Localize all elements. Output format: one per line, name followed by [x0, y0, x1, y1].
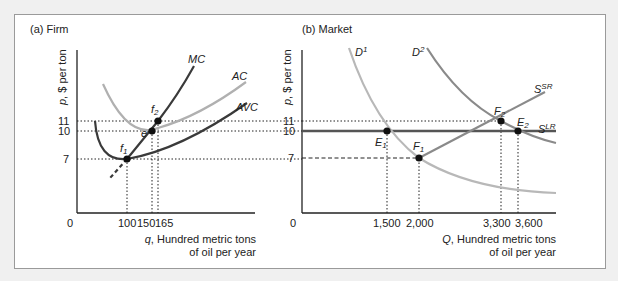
market-y-tick-7: 7	[288, 152, 294, 164]
market-x-tick-3300: 3,300	[483, 217, 511, 229]
label-e: e	[141, 127, 147, 139]
market-x-axis-label-2: of oil per year	[489, 246, 556, 258]
label-f1-market: F1	[413, 140, 424, 154]
firm-y-tick-7: 7	[63, 153, 69, 165]
point-e1	[383, 127, 390, 134]
market-x-tick-2000: 2,000	[406, 217, 434, 229]
d2-label: D2	[412, 45, 425, 58]
avc-label: AVC	[235, 101, 258, 113]
slr-label: SLR	[538, 122, 556, 135]
firm-origin: 0	[67, 217, 73, 229]
firm-x-tick-100: 100	[118, 217, 136, 229]
point-e2	[514, 127, 521, 134]
firm-x-tick-165: 165	[155, 217, 173, 229]
figure-svg: (a) Firm p, $ per ton 11 10 7 0 100 150 …	[0, 0, 618, 281]
ac-curve	[103, 82, 246, 130]
market-y-axis-label: p, $ per ton	[281, 49, 293, 106]
firm-x-axis-label-2: of oil per year	[189, 246, 256, 258]
mc-dashed-extension	[110, 159, 127, 178]
point-f1	[123, 155, 130, 162]
firm-panel: (a) Firm p, $ per ton 11 10 7 0 100 150 …	[30, 23, 302, 258]
label-f2-market: F2	[494, 105, 506, 119]
mc-label: MC	[188, 53, 205, 65]
mc-curve	[127, 66, 194, 159]
label-e1: E1	[375, 136, 387, 150]
point-e	[148, 127, 155, 134]
firm-x-tick-150: 150	[137, 217, 155, 229]
label-f1: f1	[120, 142, 128, 156]
market-title: (b) Market	[302, 23, 352, 35]
firm-title: (a) Firm	[30, 23, 69, 35]
market-x-tick-1500: 1,500	[373, 217, 401, 229]
point-f1-market	[415, 154, 422, 161]
label-e2: E2	[517, 116, 529, 130]
market-x-tick-3600: 3,600	[515, 217, 543, 229]
market-y-tick-10: 10	[283, 125, 295, 137]
firm-y-tick-10: 10	[58, 125, 70, 137]
market-origin: 0	[290, 217, 296, 229]
firm-y-axis-label: p, $ per ton	[56, 49, 68, 106]
market-x-axis-label-1: Q, Hundred metric tons	[442, 233, 556, 245]
firm-x-axis-label-1: q, Hundred metric tons	[145, 233, 257, 245]
ac-label: AC	[231, 70, 247, 82]
label-f2: f2	[151, 103, 159, 117]
d1-label: D1	[355, 45, 367, 58]
point-f2	[154, 117, 161, 124]
market-panel: (b) Market p, $ per ton 11 10 7 0 1,500 …	[281, 23, 556, 258]
